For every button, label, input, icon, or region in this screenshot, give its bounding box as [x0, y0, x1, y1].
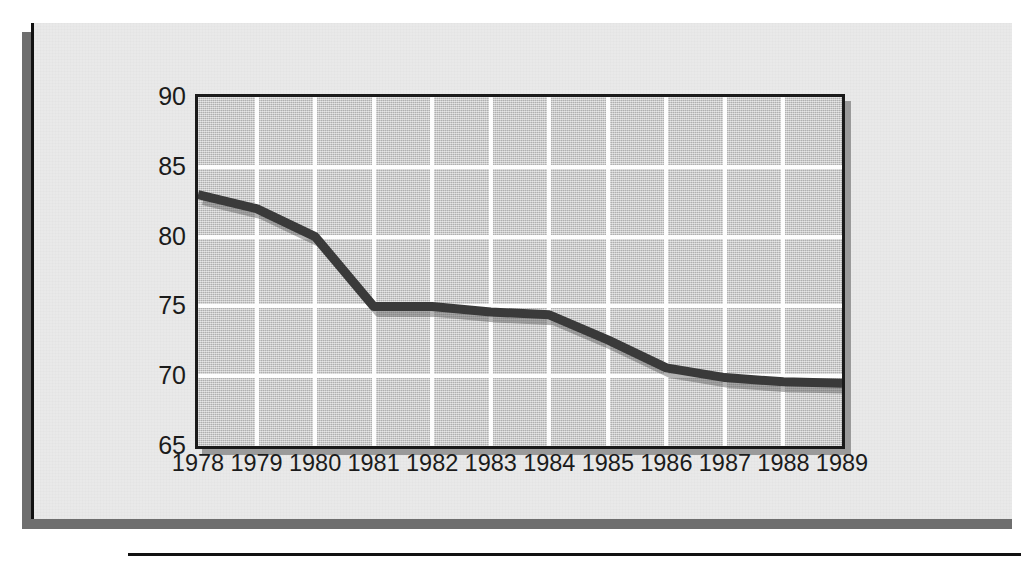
- paper-texture: [34, 23, 1012, 519]
- page-horizontal-rule: [128, 553, 1021, 556]
- page-canvas: 657075808590 197819791980198119821983198…: [0, 0, 1029, 571]
- figure-card: [31, 23, 1012, 519]
